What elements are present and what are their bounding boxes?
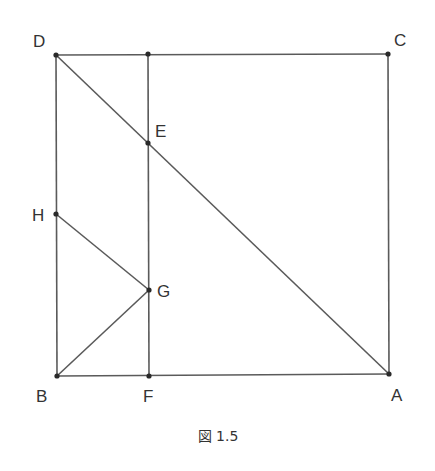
label-E: E <box>155 122 166 141</box>
point-labels: D C E H G B F A <box>32 31 406 406</box>
segments <box>56 54 389 376</box>
point-A <box>386 371 391 376</box>
point-G <box>146 287 151 292</box>
label-G: G <box>157 282 170 301</box>
segment-DC <box>56 54 388 55</box>
label-A: A <box>391 386 403 405</box>
segment-AB <box>57 374 389 376</box>
segment-HG <box>56 214 149 290</box>
figure-caption: 図 1.5 <box>198 428 239 444</box>
geometry-diagram: D C E H G B F A 図 1.5 <box>0 0 435 471</box>
segment-DA <box>56 55 389 374</box>
point-H <box>53 211 58 216</box>
point-B <box>54 373 59 378</box>
label-B: B <box>36 387 47 406</box>
point-F <box>146 373 151 378</box>
segment-TF <box>148 54 149 376</box>
label-F: F <box>143 387 153 406</box>
label-C: C <box>394 31 406 50</box>
point-C <box>385 51 390 56</box>
point-D <box>53 52 58 57</box>
point-E <box>145 140 150 145</box>
segment-CA <box>388 54 389 374</box>
point-T <box>145 51 150 56</box>
label-H: H <box>32 206 44 225</box>
label-D: D <box>33 32 45 51</box>
segment-BG <box>57 290 149 376</box>
